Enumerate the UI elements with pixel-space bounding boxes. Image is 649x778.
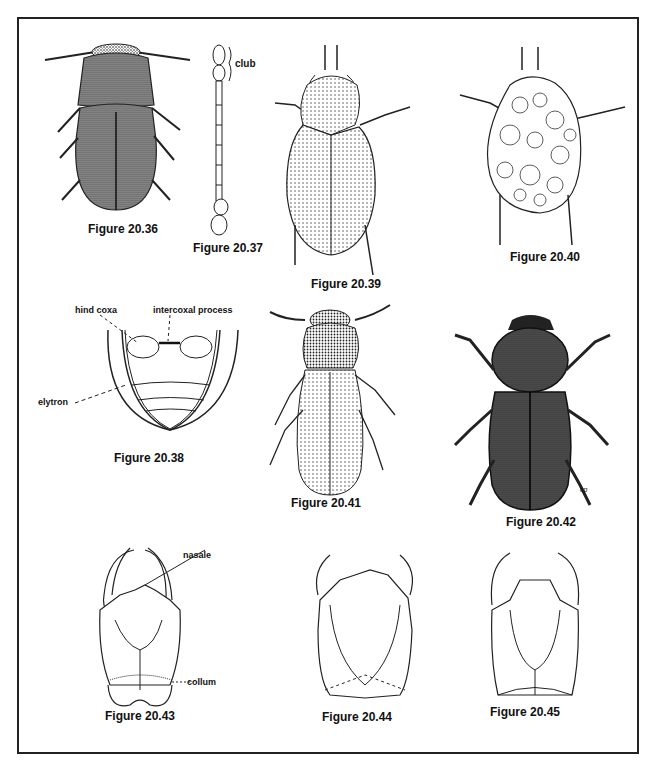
- debris-covered-beetle-illustration: [460, 45, 630, 245]
- figure-20-39: Figure 20.39: [265, 45, 415, 295]
- figure-20-45: Figure 20.45: [480, 550, 610, 725]
- figure-caption: Figure 20.41: [291, 496, 361, 510]
- stippled-beetle-illustration: [40, 40, 200, 215]
- abdomen-diagram: [30, 305, 250, 455]
- figure-caption: Figure 20.42: [506, 515, 576, 529]
- artist-signature: cp: [580, 486, 587, 493]
- head-capsule-diagram: [480, 550, 610, 700]
- figure-20-43: nasale collum Figure 20.43: [90, 545, 230, 725]
- head-capsule-diagram: [300, 550, 440, 705]
- elongate-beetle-illustration: [255, 300, 405, 500]
- figure-20-40: Figure 20.40: [460, 45, 630, 265]
- figure-20-41: Figure 20.41: [255, 300, 405, 515]
- label-club: club: [235, 58, 256, 69]
- dark-hairy-beetle-illustration: [450, 310, 640, 510]
- figure-20-38: hind coxa intercoxal process elytron Fig…: [30, 305, 250, 475]
- figure-20-36: Figure 20.36: [40, 40, 200, 220]
- figure-caption: Figure 20.44: [322, 710, 392, 724]
- label-nasale: nasale: [183, 550, 211, 560]
- figure-20-44: Figure 20.44: [300, 550, 440, 730]
- punctate-beetle-illustration: [265, 45, 415, 275]
- antenna-illustration: [205, 45, 245, 235]
- figure-caption: Figure 20.37: [193, 241, 263, 255]
- figure-20-42: cp Figure 20.42: [450, 310, 640, 535]
- figure-caption: Figure 20.40: [510, 250, 580, 264]
- figure-caption: Figure 20.38: [114, 451, 184, 465]
- figure-caption: Figure 20.39: [311, 277, 381, 291]
- figure-caption: Figure 20.36: [88, 222, 158, 236]
- figure-caption: Figure 20.45: [490, 705, 560, 719]
- label-collum: collum: [187, 677, 216, 687]
- figure-caption: Figure 20.43: [105, 709, 175, 723]
